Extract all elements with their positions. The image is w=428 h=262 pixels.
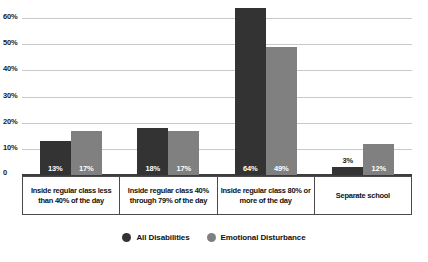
bar-all-disabilities-2[interactable]: 18% [137,128,168,175]
y-axis-tick-30: 30% [3,91,23,100]
category-label-1: Inside regular class less than 40% of th… [23,177,120,214]
y-axis-tick-10: 10% [3,143,23,152]
y-axis-tick-0: 0 [3,168,23,177]
y-axis-tick-20: 20% [3,117,23,126]
legend-label: All Disabilities [136,233,189,242]
y-axis-tick-50: 50% [3,38,23,47]
y-axis-tick-40: 40% [3,64,23,73]
bar-all-disabilities-4[interactable]: 3% [332,167,363,175]
bar-value-label: 3% [332,156,363,165]
category-label-3: Inside regular class 80% or more of the … [218,177,315,214]
bar-group-2: 18% 17% [120,18,218,175]
category-label-4: Separate school [315,177,411,214]
bar-value-label: 17% [168,164,199,173]
bar-group-1: 13% 17% [22,18,120,175]
chart-legend: All Disabilities Emotional Disturbance [0,233,428,242]
bar-emotional-disturbance-3[interactable]: 49% [266,47,297,175]
bar-all-disabilities-1[interactable]: 13% [40,141,71,175]
bar-group-3: 64% 49% [217,18,315,175]
legend-circle-icon [122,233,131,242]
bar-value-label: 18% [137,164,168,173]
bar-emotional-disturbance-2[interactable]: 17% [168,131,199,175]
legend-item-emotional-disturbance[interactable]: Emotional Disturbance [207,233,306,242]
legend-label: Emotional Disturbance [221,233,306,242]
bar-value-label: 12% [363,164,394,173]
category-label-2: Inside regular class 40% through 79% of … [120,177,217,214]
bar-value-label: 17% [71,164,102,173]
legend-item-all-disabilities[interactable]: All Disabilities [122,233,189,242]
legend-circle-icon [207,233,216,242]
bar-value-label: 49% [266,164,297,173]
bars-layer: 13% 17% 18% 17% 64% [22,18,412,175]
y-axis-tick-60: 60% [3,12,23,21]
bar-all-disabilities-3[interactable]: 64% [235,8,266,176]
bar-value-label: 64% [235,164,266,173]
bar-emotional-disturbance-4[interactable]: 12% [363,144,394,175]
bar-emotional-disturbance-1[interactable]: 17% [71,131,102,175]
bar-chart: 60% 50% 40% 30% 20% 10% 0 13% 17% 18% [0,0,428,262]
bar-group-4: 3% 12% [315,18,413,175]
x-axis-category-table: Inside regular class less than 40% of th… [22,176,412,215]
bar-value-label: 13% [40,164,71,173]
